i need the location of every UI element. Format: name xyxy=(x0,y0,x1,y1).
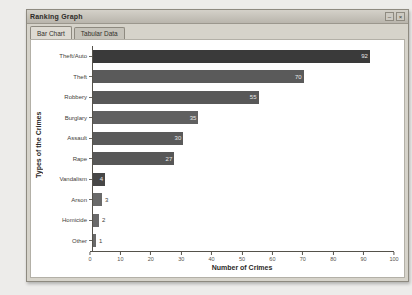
x-tick-mark xyxy=(120,252,121,255)
category-label: Theft xyxy=(45,74,89,80)
bar: 55 xyxy=(93,91,259,104)
category-label: Rape xyxy=(45,156,89,162)
bar-row: Assault30 xyxy=(45,128,394,149)
x-tick: 10 xyxy=(117,252,123,262)
bar: 92 xyxy=(93,50,370,63)
bar-value-label: 4 xyxy=(100,176,103,182)
bar-row: Burglary35 xyxy=(45,108,394,129)
y-axis-label: Types of the Crimes xyxy=(31,40,45,277)
x-tick-label: 60 xyxy=(269,256,275,262)
chart-panel: Types of the Crimes Theft/Auto92Theft70R… xyxy=(30,39,405,278)
x-tick: 60 xyxy=(269,252,275,262)
bar-value-label: 27 xyxy=(166,156,173,162)
bar-zone: 92 xyxy=(92,46,394,67)
bar-row: Theft/Auto92 xyxy=(45,46,394,67)
x-tick: 0 xyxy=(88,252,91,262)
category-label: Assault xyxy=(45,135,89,141)
bar-zone: 3 xyxy=(92,190,394,211)
bar-zone: 55 xyxy=(92,87,394,108)
category-label: Burglary xyxy=(45,115,89,121)
bar-value-label: 35 xyxy=(190,115,197,121)
bar-zone: 1 xyxy=(92,231,394,252)
x-tick: 40 xyxy=(209,252,215,262)
x-tick: 20 xyxy=(148,252,154,262)
bar-value-label: 70 xyxy=(295,74,302,80)
x-tick-mark xyxy=(333,252,334,255)
bar-value-label: 2 xyxy=(102,217,105,223)
window-title: Ranking Graph xyxy=(30,13,83,20)
bar-value-label: 30 xyxy=(175,135,182,141)
bar-zone: 4 xyxy=(92,169,394,190)
bar-zone: 27 xyxy=(92,149,394,170)
bar: 27 xyxy=(93,152,174,165)
tab-tabular-data[interactable]: Tabular Data xyxy=(74,27,125,39)
category-label: Other xyxy=(45,238,89,244)
bar: 4 xyxy=(93,173,105,186)
bar: 35 xyxy=(93,111,198,124)
x-tick-label: 100 xyxy=(389,256,398,262)
tab-bar: Bar Chart Tabular Data xyxy=(27,24,408,39)
x-tick-label: 30 xyxy=(178,256,184,262)
x-tick: 80 xyxy=(330,252,336,262)
x-tick-mark xyxy=(90,252,91,255)
x-tick-mark xyxy=(363,252,364,255)
x-tick-label: 20 xyxy=(148,256,154,262)
minimize-button[interactable]: – xyxy=(385,12,394,21)
category-label: Arson xyxy=(45,197,89,203)
x-tick-mark xyxy=(211,252,212,255)
x-axis-label: Number of Crimes xyxy=(45,264,394,275)
bar-value-label: 92 xyxy=(361,53,368,59)
x-tick-label: 40 xyxy=(209,256,215,262)
bar-zone: 70 xyxy=(92,67,394,88)
app-window: Ranking Graph – × Bar Chart Tabular Data… xyxy=(26,9,409,282)
window-titlebar: Ranking Graph – × xyxy=(27,10,408,24)
bar-row: Vandalism4 xyxy=(45,169,394,190)
x-tick-label: 80 xyxy=(330,256,336,262)
bar-zone: 35 xyxy=(92,108,394,129)
category-label: Theft/Auto xyxy=(45,53,89,59)
bar-row: Theft70 xyxy=(45,67,394,88)
x-tick: 100 xyxy=(389,252,398,262)
x-tick-mark xyxy=(181,252,182,255)
x-tick-label: 70 xyxy=(300,256,306,262)
bar-value-label: 55 xyxy=(250,94,257,100)
x-tick-mark xyxy=(150,252,151,255)
bar: 1 xyxy=(93,234,96,247)
bar: 30 xyxy=(93,132,183,145)
plot-area: Theft/Auto92Theft70Robbery55Burglary35As… xyxy=(45,46,394,251)
x-tick-mark xyxy=(272,252,273,255)
x-tick-label: 0 xyxy=(88,256,91,262)
bar-row: Homicide2 xyxy=(45,210,394,231)
window-controls: – × xyxy=(385,12,405,21)
x-tick-label: 50 xyxy=(239,256,245,262)
x-tick-label: 10 xyxy=(117,256,123,262)
category-label: Homicide xyxy=(45,217,89,223)
bar-row: Other1 xyxy=(45,231,394,252)
x-tick-mark xyxy=(242,252,243,255)
bar-row: Robbery55 xyxy=(45,87,394,108)
bar-row: Rape27 xyxy=(45,149,394,170)
x-tick: 30 xyxy=(178,252,184,262)
tab-bar-chart[interactable]: Bar Chart xyxy=(30,26,72,39)
bar-zone: 30 xyxy=(92,128,394,149)
x-tick-mark xyxy=(302,252,303,255)
plot-wrapper: Theft/Auto92Theft70Robbery55Burglary35As… xyxy=(45,40,404,277)
x-tick: 70 xyxy=(300,252,306,262)
x-tick: 90 xyxy=(361,252,367,262)
bar: 2 xyxy=(93,214,99,227)
bar-value-label: 1 xyxy=(99,238,102,244)
category-label: Vandalism xyxy=(45,176,89,182)
bar-value-label: 3 xyxy=(105,197,108,203)
bar: 3 xyxy=(93,193,102,206)
bar-zone: 2 xyxy=(92,210,394,231)
x-tick-mark xyxy=(394,252,395,255)
x-axis: 0102030405060708090100 xyxy=(90,251,394,264)
category-label: Robbery xyxy=(45,94,89,100)
x-tick: 50 xyxy=(239,252,245,262)
bar: 70 xyxy=(93,70,304,83)
x-tick-label: 90 xyxy=(361,256,367,262)
close-button[interactable]: × xyxy=(396,12,405,21)
bar-row: Arson3 xyxy=(45,190,394,211)
